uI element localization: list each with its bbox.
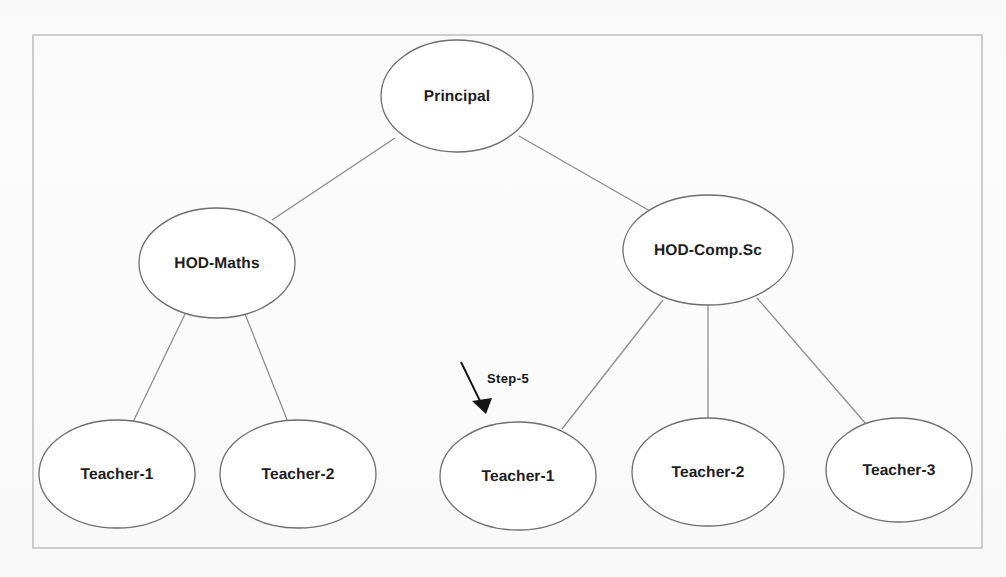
node-label-hod-comp-sc: HOD-Comp.Sc [654, 242, 762, 260]
node-label-hod-maths: HOD-Maths [174, 255, 259, 273]
node-group [39, 40, 972, 530]
edge-principal-to-hod-comp-sc [519, 136, 650, 211]
node-label-teacher-maths-1: Teacher-1 [81, 466, 154, 484]
edge-hod-comp-sc-to-teacher-1 [562, 300, 663, 429]
edge-hod-maths-to-teacher-2 [245, 314, 288, 422]
node-label-teacher-maths-2: Teacher-2 [262, 466, 335, 484]
node-label-teacher-compsc-2: Teacher-2 [672, 464, 745, 482]
step-5-annotation-label: Step-5 [487, 371, 529, 386]
edge-principal-to-hod-maths [272, 138, 395, 220]
edge-hod-comp-sc-to-teacher-3 [757, 298, 866, 424]
org-hierarchy-diagram [0, 0, 1006, 577]
edge-hod-maths-to-teacher-1 [133, 314, 185, 422]
step-5-arrow-shaft [461, 362, 481, 403]
node-label-principal: Principal [424, 88, 490, 106]
step-5-arrow-head [472, 398, 492, 414]
node-label-teacher-compsc-3: Teacher-3 [863, 462, 936, 480]
node-label-teacher-compsc-1: Teacher-1 [482, 468, 555, 486]
